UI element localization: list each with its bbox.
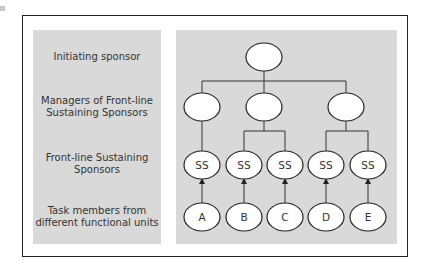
node-manager-2 — [246, 93, 282, 121]
node-label: E — [365, 211, 372, 223]
node-label: SS — [237, 159, 251, 171]
node-label: C — [281, 211, 288, 223]
node-label: SS — [319, 159, 333, 171]
node-label: SS — [361, 159, 375, 171]
node-label: SS — [278, 159, 292, 171]
node-manager-1 — [184, 93, 220, 121]
node-manager-3 — [328, 93, 364, 121]
node-label: SS — [195, 159, 209, 171]
task-to-sponsor-arrows — [202, 181, 368, 203]
hierarchy-diagram: SS SS SS SS SS A B C D E — [0, 0, 431, 272]
node-label: D — [322, 211, 330, 223]
node-label: B — [240, 211, 247, 223]
node-label: A — [198, 211, 206, 223]
node-initiating-sponsor — [246, 43, 282, 71]
